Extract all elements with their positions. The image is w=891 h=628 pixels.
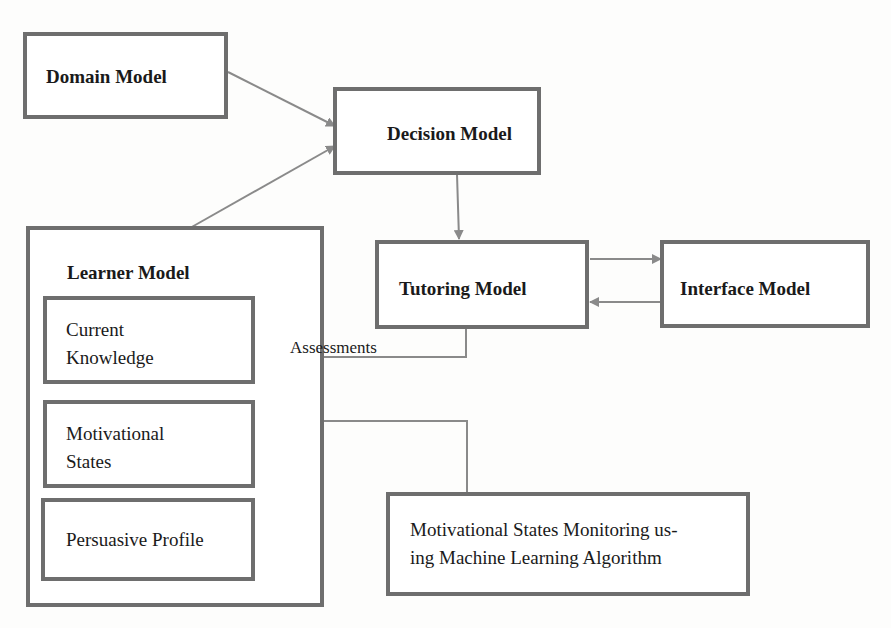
tutoring-model-node: Tutoring Model	[375, 240, 589, 329]
edge-domain-to-decision	[228, 72, 335, 126]
motivational-states-node: Motivational States	[43, 400, 255, 488]
motivational-states-line2: States	[66, 446, 111, 478]
interface-model-label: Interface Model	[680, 278, 810, 300]
assessments-edge-label: Assessments	[290, 338, 377, 358]
persuasive-profile-node: Persuasive Profile	[41, 498, 255, 581]
monitoring-node: Motivational States Monitoring us- ing M…	[386, 492, 750, 596]
decision-model-node: Decision Model	[333, 87, 541, 175]
domain-model-label: Domain Model	[46, 66, 167, 88]
edge-decision-to-tutoring	[457, 174, 459, 239]
interface-model-node: Interface Model	[660, 240, 870, 328]
monitoring-line2: ing Machine Learning Algorithm	[410, 542, 662, 574]
domain-model-node: Domain Model	[23, 32, 228, 119]
edge-learner-to-decision	[190, 146, 335, 228]
current-knowledge-node: Current Knowledge	[43, 296, 255, 384]
tutoring-model-label: Tutoring Model	[399, 278, 527, 300]
decision-model-label: Decision Model	[387, 123, 512, 145]
learner-model-label: Learner Model	[67, 262, 190, 284]
current-knowledge-line2: Knowledge	[66, 342, 154, 374]
persuasive-profile-label: Persuasive Profile	[66, 524, 204, 556]
